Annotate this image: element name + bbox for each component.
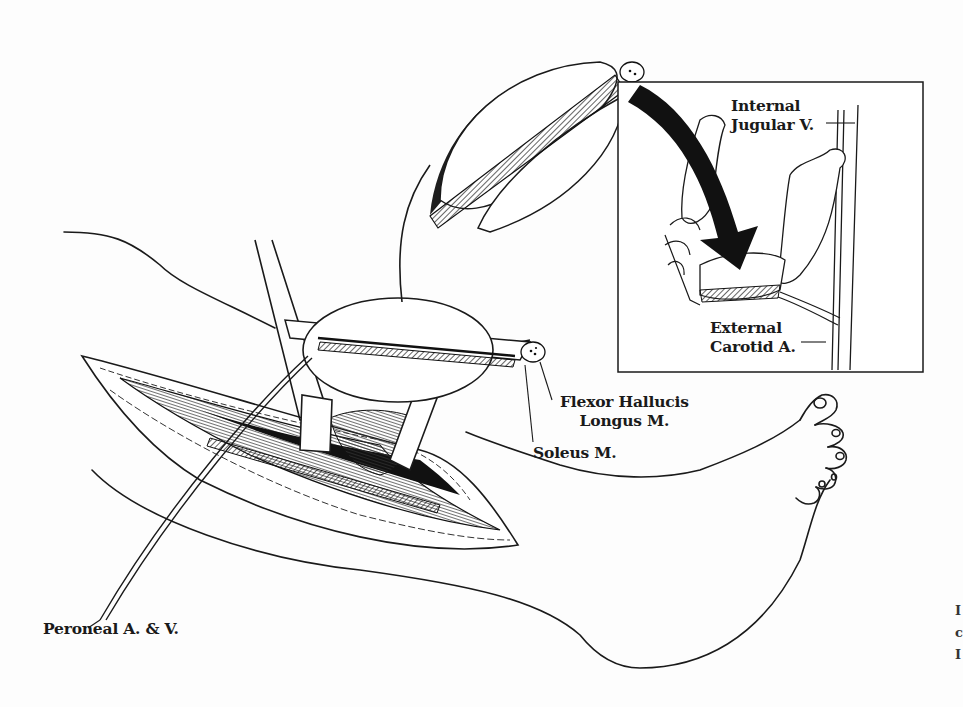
label-internal-jugular-vein: Internal Jugular V. (731, 96, 814, 134)
label-peroneal-artery-vein: Peroneal A. & V. (43, 619, 179, 638)
label-line: Jugular V. (731, 115, 814, 134)
transfer-curve (400, 165, 430, 302)
label-line: Longus M. (560, 411, 689, 430)
label-flexor-hallucis-longus: Flexor Hallucis Longus M. (560, 392, 689, 430)
label-line: Carotid A. (710, 337, 796, 356)
fragment: c (955, 622, 963, 644)
harvested-flap-leg (285, 298, 545, 402)
label-line: Flexor Hallucis (560, 392, 689, 411)
label-soleus-muscle: Soleus M. (533, 443, 616, 462)
label-line: External (710, 318, 796, 337)
fragment: I (955, 600, 963, 622)
illustration-canvas (0, 0, 963, 707)
cropped-text-fragments: I c I (955, 600, 963, 666)
fragment: I (955, 644, 963, 666)
label-external-carotid-artery: External Carotid A. (710, 318, 796, 356)
label-line: Internal (731, 96, 814, 115)
